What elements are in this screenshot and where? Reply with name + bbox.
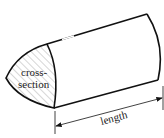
far-end-arc <box>147 14 160 80</box>
top-edge-highlight <box>62 36 74 40</box>
cross-section-label-line1: cross- <box>21 66 48 78</box>
cylinder-diagram: cross- section length <box>0 0 164 138</box>
cross-section-label-line2: section <box>18 78 50 90</box>
bottom-edge <box>54 80 158 108</box>
length-label: length <box>99 108 129 127</box>
